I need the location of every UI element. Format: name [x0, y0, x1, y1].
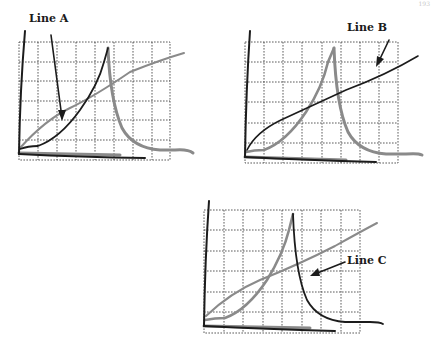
y-axis — [204, 201, 209, 326]
label-line-c: Line C — [347, 254, 387, 267]
y-axis — [19, 31, 25, 154]
panel-line-a: Line A — [0, 0, 210, 170]
grid — [19, 42, 170, 160]
straight-line — [206, 223, 377, 316]
grid — [245, 42, 398, 163]
panel-line-c: Line C — [185, 168, 400, 346]
label-line-a: Line A — [29, 12, 68, 25]
chart-line-b — [226, 0, 434, 170]
arrow-line-c — [310, 262, 345, 276]
arrow-line-b — [376, 40, 389, 67]
panel-line-b: Line B — [226, 0, 434, 170]
label-line-b: Line B — [347, 21, 387, 34]
rising-curve — [246, 48, 334, 152]
y-axis — [245, 31, 250, 157]
arrow-line-a — [51, 35, 66, 121]
figure: 193 — [0, 0, 434, 346]
line-c-curve — [293, 214, 383, 324]
line-b-curve — [247, 56, 418, 150]
chart-line-a — [0, 0, 210, 170]
